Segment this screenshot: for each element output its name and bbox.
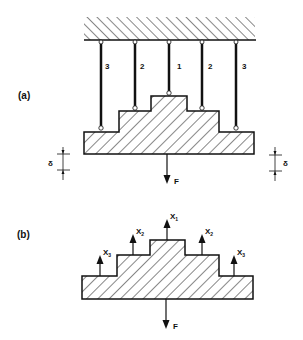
delta-label: δ (48, 159, 53, 168)
rod-label: 2 (208, 62, 213, 71)
pin-joint-icon (234, 126, 238, 130)
rod-right-3: 3 (234, 40, 247, 130)
delta-label: δ (283, 159, 288, 168)
panel-a: (a) 3 2 1 2 (18, 17, 288, 186)
applied-force-arrow: F (164, 154, 180, 186)
svg-text:X3: X3 (103, 248, 111, 258)
pin-joint-icon (99, 40, 103, 44)
svg-text:X2: X2 (136, 227, 144, 237)
pin-joint-icon (167, 40, 171, 44)
rod-label: 1 (177, 62, 182, 71)
applied-force-arrow-b: F (163, 299, 179, 331)
rod-left-2: 2 (133, 40, 145, 110)
rod-center-1: 1 (167, 40, 182, 95)
reaction-arrow-x1: X1 (164, 212, 179, 240)
pin-joint-icon (167, 91, 171, 95)
pin-joint-icon (133, 106, 137, 110)
svg-text:X2: X2 (205, 227, 213, 237)
pin-joint-icon (200, 40, 204, 44)
rod-label: 3 (105, 62, 110, 71)
rod-label: 3 (242, 62, 247, 71)
rod-right-2: 2 (200, 40, 213, 110)
stepped-block-diagram: (a) 3 2 1 2 (0, 0, 303, 340)
pin-joint-icon (200, 106, 204, 110)
force-label: F (174, 177, 179, 186)
rod-label: 2 (140, 62, 145, 71)
panel-a-label: (a) (18, 90, 30, 101)
svg-text:X1: X1 (170, 212, 178, 222)
reaction-arrow-x3-left: X3 (97, 248, 112, 276)
pin-joint-icon (133, 40, 137, 44)
reaction-subscript: 2 (141, 231, 144, 237)
fixed-ceiling-support (84, 17, 256, 40)
delta-dimension-left: δ (48, 147, 70, 180)
reaction-arrow-x2-left: X2 (130, 227, 145, 255)
rod-left-3: 3 (99, 40, 110, 130)
reaction-subscript: 1 (175, 216, 178, 222)
reaction-arrow-x2-right: X2 (199, 227, 214, 255)
force-label: F (173, 322, 178, 331)
reaction-subscript: 3 (242, 252, 245, 258)
reaction-subscript: 2 (210, 231, 213, 237)
pin-joint-icon (234, 40, 238, 44)
svg-text:X3: X3 (237, 248, 245, 258)
panel-b: (b) X3 X2 X1 X2 X3 (17, 212, 253, 331)
panel-b-label: (b) (17, 229, 30, 240)
reaction-subscript: 3 (108, 252, 111, 258)
pin-joint-icon (99, 126, 103, 130)
rigid-stepped-block (84, 96, 254, 154)
delta-dimension-right: δ (269, 147, 288, 181)
reaction-arrow-x3-right: X3 (231, 248, 246, 276)
